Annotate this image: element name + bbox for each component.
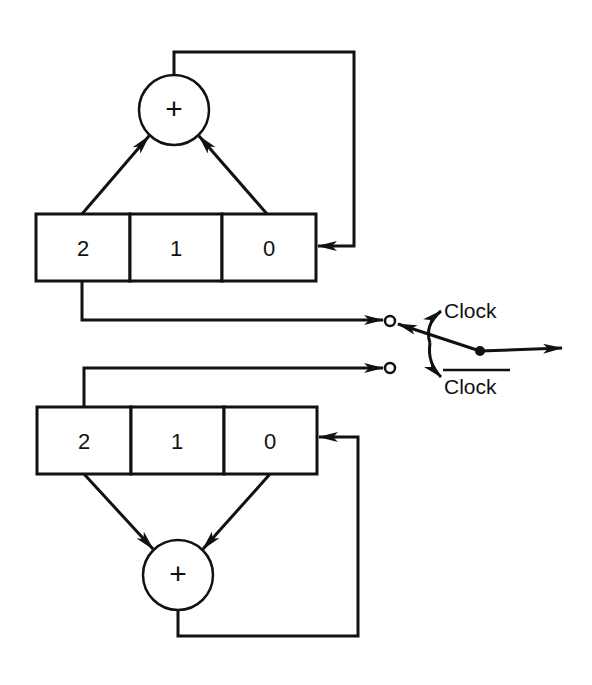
bottom-register-cell-2-label: 2 xyxy=(78,429,90,454)
bottom-shift-register: 2 1 0 xyxy=(37,407,317,474)
top-register-cell-1-label: 1 xyxy=(170,236,182,261)
switch-arm xyxy=(398,324,480,351)
shift-register-switch-diagram: 2 1 0 + 2 1 0 + Cloc xyxy=(0,0,592,685)
bottom-tap-cell2-arrow xyxy=(84,474,153,549)
bottom-register-cell-1-label: 1 xyxy=(171,429,183,454)
top-tap-cell2-arrow xyxy=(82,136,149,214)
switch-output-arrow xyxy=(480,348,562,351)
plus-icon: + xyxy=(165,92,183,125)
clock-label: Clock xyxy=(444,299,497,322)
switch-toggle-arc-down-arrow xyxy=(429,343,441,377)
bottom-output-wire xyxy=(84,368,383,407)
bottom-tap-cell0-arrow xyxy=(203,474,270,549)
clock-bar-label: Clock xyxy=(444,375,497,398)
top-shift-register: 2 1 0 xyxy=(36,214,316,281)
top-xor-adder: + xyxy=(139,75,209,145)
lower-switch-contact xyxy=(385,363,395,373)
bottom-register-cell-0-label: 0 xyxy=(264,429,276,454)
plus-icon: + xyxy=(169,557,187,590)
clock-switch: Clock Clock xyxy=(385,299,562,398)
top-output-wire xyxy=(82,281,383,320)
bottom-xor-adder: + xyxy=(143,540,213,610)
top-register-cell-0-label: 0 xyxy=(263,236,275,261)
top-tap-cell0-arrow xyxy=(199,136,267,214)
upper-switch-contact xyxy=(385,316,395,326)
top-register-cell-2-label: 2 xyxy=(77,236,89,261)
